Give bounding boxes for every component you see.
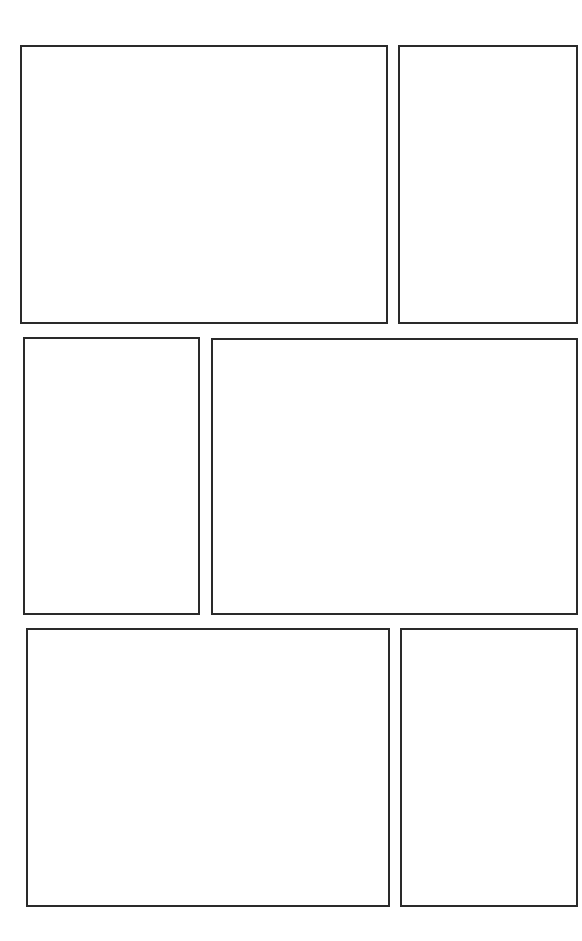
panel-1: [20, 45, 388, 324]
panel-4: [211, 338, 578, 615]
panel-3: [23, 337, 200, 615]
comic-page: [0, 0, 582, 941]
panel-6: [400, 628, 578, 907]
panel-2: [398, 45, 578, 324]
panel-5: [26, 628, 390, 907]
